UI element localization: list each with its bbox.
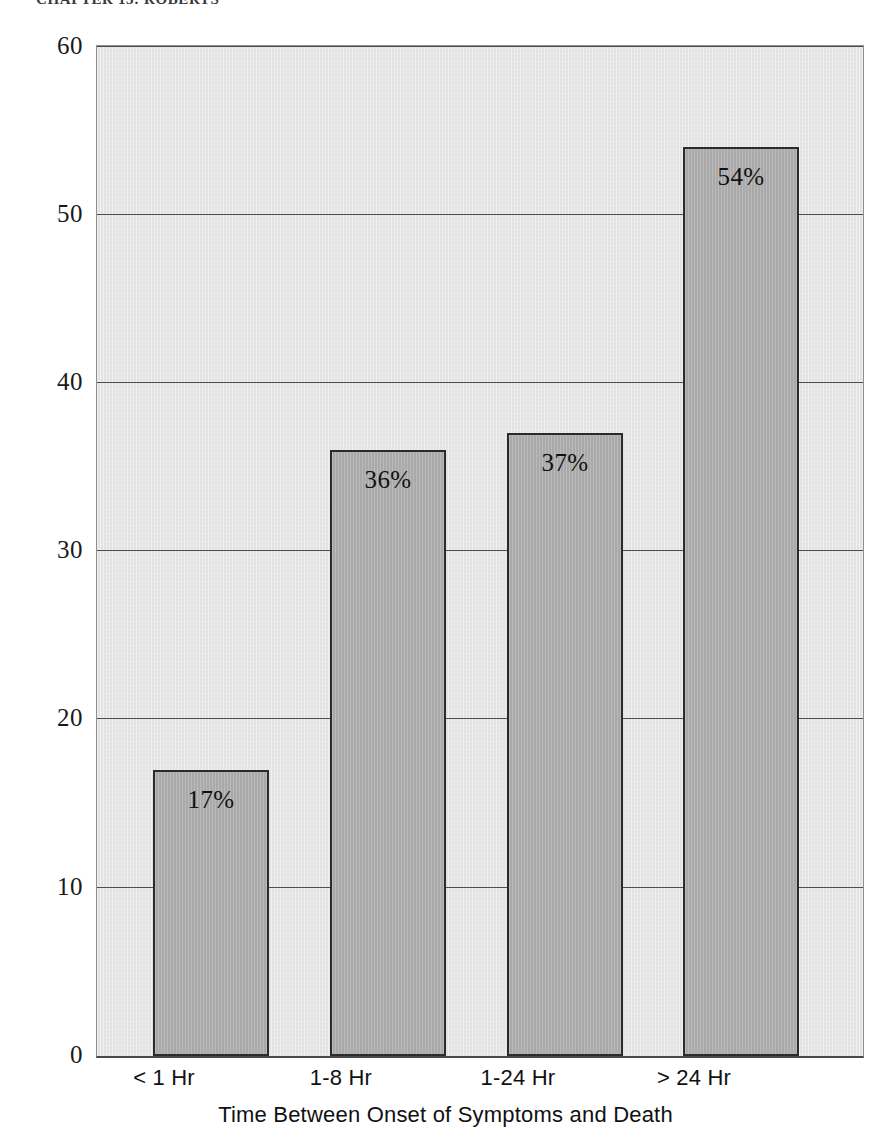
bar-value-label: 36% <box>332 466 444 494</box>
y-tick-label-30: 30 <box>57 536 83 564</box>
y-tick-label-0: 0 <box>70 1041 83 1069</box>
bar-value-label: 17% <box>155 786 267 814</box>
x-tick-label-1-24-hr: 1-24 Hr <box>446 1065 590 1091</box>
bar-1-8-hr[interactable]: 36% <box>330 450 446 1056</box>
bar-chart-figure: Percent with Thrombi 60 50 40 30 20 10 0… <box>0 0 891 1141</box>
bar-1-24-hr[interactable]: 37% <box>507 433 623 1056</box>
bar-value-label: 54% <box>685 163 797 191</box>
bar-lt-1-hr[interactable]: 17% <box>153 770 269 1056</box>
y-tick-label-20: 20 <box>57 704 83 732</box>
gridline-60: 60 <box>97 46 863 47</box>
plot-area: 60 50 40 30 20 10 0 17% 36% 37% 54 <box>96 45 864 1058</box>
y-tick-label-10: 10 <box>57 873 83 901</box>
y-tick-label-40: 40 <box>57 368 83 396</box>
x-tick-label-gt-24-hr: > 24 Hr <box>622 1065 766 1091</box>
x-axis-title: Time Between Onset of Symptoms and Death <box>0 1102 891 1128</box>
bar-gt-24-hr[interactable]: 54% <box>683 147 799 1056</box>
x-tick-label-1-8-hr: 1-8 Hr <box>269 1065 413 1091</box>
x-tick-label-lt-1-hr: < 1 Hr <box>92 1065 236 1091</box>
y-tick-label-50: 50 <box>57 200 83 228</box>
bar-value-label: 37% <box>509 449 621 477</box>
y-tick-label-60: 60 <box>57 32 83 60</box>
